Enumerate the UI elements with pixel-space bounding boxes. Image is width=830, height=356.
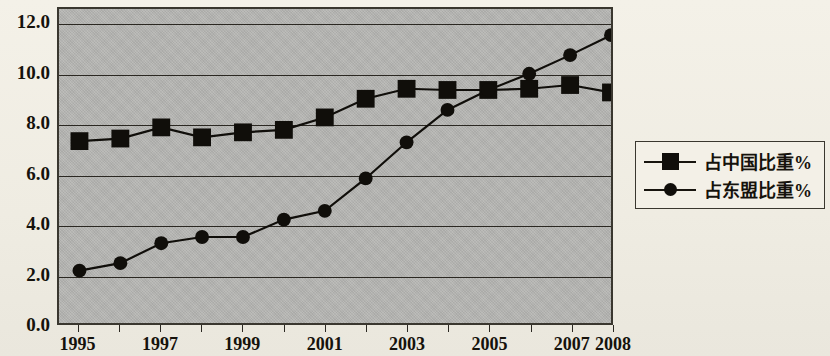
x-axis-tick	[407, 325, 408, 332]
data-point-circle	[563, 48, 577, 62]
x-axis-tick	[119, 325, 120, 332]
data-point-square	[193, 128, 211, 146]
legend-item-1: 占东盟比重%	[642, 175, 820, 203]
data-point-circle	[522, 67, 536, 81]
data-point-square	[561, 76, 579, 94]
x-axis-tick	[489, 325, 490, 332]
data-point-square	[275, 121, 293, 139]
x-axis-tick	[284, 325, 285, 332]
data-point-square	[398, 80, 416, 98]
x-axis-label: 2007	[554, 334, 590, 355]
y-axis-label: 4.0	[26, 213, 50, 235]
x-axis-tick	[572, 325, 573, 332]
data-point-square	[71, 132, 89, 150]
x-axis-tick	[242, 325, 243, 332]
x-axis-tick	[448, 325, 449, 332]
y-axis-label: 0.0	[26, 314, 50, 336]
data-point-circle	[113, 256, 127, 270]
data-point-circle	[236, 230, 250, 244]
x-axis-tick	[531, 325, 532, 332]
legend-label-1: 占东盟比重%	[698, 176, 812, 202]
data-point-circle	[359, 172, 373, 186]
data-point-circle	[318, 204, 332, 218]
plot-area	[57, 7, 613, 325]
x-axis-label: 2005	[471, 334, 507, 355]
data-point-square	[234, 123, 252, 141]
y-axis-label: 10.0	[17, 62, 50, 84]
legend-marker-square	[642, 149, 698, 173]
data-point-square	[111, 130, 129, 148]
data-point-square	[357, 90, 375, 108]
x-axis-label: 2008	[595, 334, 631, 355]
y-axis-label: 12.0	[17, 11, 50, 33]
x-axis-label: 1997	[142, 334, 178, 355]
y-axis-label: 2.0	[26, 264, 50, 286]
y-axis-label: 6.0	[26, 163, 50, 185]
x-axis-label: 2003	[389, 334, 425, 355]
series-layer	[59, 9, 611, 323]
data-point-square	[152, 119, 170, 137]
data-point-circle	[441, 103, 455, 117]
x-axis-tick	[160, 325, 161, 332]
chart-container: 0.02.04.06.08.010.012.0 1995199719992001…	[0, 0, 830, 356]
x-axis: 19951997199920012003200520072008	[57, 325, 613, 356]
data-point-circle	[400, 135, 414, 149]
legend-item-0: 占中国比重%	[642, 147, 820, 175]
x-axis-label: 2001	[307, 334, 343, 355]
data-point-square	[439, 81, 457, 99]
x-axis-tick	[366, 325, 367, 332]
legend-marker-circle	[642, 177, 698, 201]
data-point-square	[316, 109, 334, 127]
x-axis-tick	[78, 325, 79, 332]
y-axis: 0.02.04.06.08.010.012.0	[0, 0, 56, 356]
data-point-circle	[73, 264, 87, 278]
x-axis-label: 1995	[60, 334, 96, 355]
data-point-circle	[195, 230, 209, 244]
legend-label-0: 占中国比重%	[698, 148, 812, 174]
data-point-circle	[154, 236, 168, 250]
data-point-circle	[604, 28, 613, 42]
x-axis-label: 1999	[224, 334, 260, 355]
data-point-circle	[277, 213, 291, 227]
data-point-circle	[481, 83, 495, 97]
y-axis-label: 8.0	[26, 112, 50, 134]
data-point-square	[602, 84, 613, 102]
x-axis-tick	[201, 325, 202, 332]
chart-legend: 占中国比重% 占东盟比重%	[635, 141, 825, 209]
data-point-square	[520, 80, 538, 98]
x-axis-tick	[325, 325, 326, 332]
x-axis-tick	[613, 325, 614, 332]
